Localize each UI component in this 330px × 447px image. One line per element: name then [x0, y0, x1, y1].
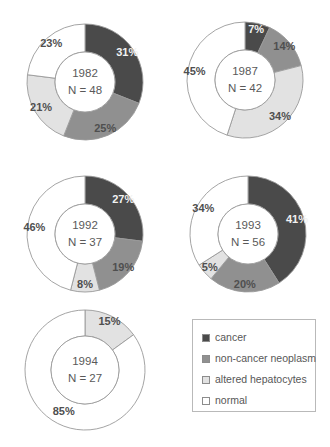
chart-sample-size-label: N = 37 — [68, 236, 102, 248]
slice-percent-label: 34% — [192, 202, 214, 214]
chart-year-label: 1982 — [72, 67, 98, 79]
donut-chart-1987: 7%14%34%45%1987N = 42 — [161, 0, 329, 164]
donut-svg-1982: 31%25%21%23%1982N = 48 — [1, 0, 169, 166]
legend-item-label: non-cancer neoplasm — [215, 353, 316, 364]
slice-percent-label: 14% — [273, 40, 295, 52]
legend-swatch-icon — [202, 334, 210, 342]
legend-item-label: normal — [215, 395, 247, 406]
slice-percent-label: 21% — [30, 101, 52, 113]
chart-sample-size-label: N = 56 — [231, 236, 265, 248]
slice-percent-label: 85% — [53, 405, 75, 417]
slice-percent-label: 5% — [202, 261, 218, 273]
slice-percent-label: 19% — [112, 261, 134, 273]
slice-percent-label: 45% — [184, 65, 206, 77]
pie-chart-figure: 31%25%21%23%1982N = 487%14%34%45%1987N =… — [0, 0, 330, 447]
chart-year-label: 1992 — [72, 219, 98, 231]
donut-hole — [215, 50, 275, 110]
donut-chart-1994: 15%85%1994N = 27 — [0, 284, 171, 447]
donut-svg-1987: 7%14%34%45%1987N = 42 — [161, 0, 329, 164]
legend-swatch-icon — [202, 355, 210, 363]
slice-percent-label: 15% — [98, 315, 120, 327]
chart-year-label: 1987 — [232, 65, 258, 77]
chart-sample-size-label: N = 27 — [68, 372, 102, 384]
slice-percent-label: 27% — [112, 193, 134, 205]
donut-chart-1993: 41%20%5%34%1993N = 56 — [164, 150, 330, 318]
donut-hole — [51, 336, 119, 404]
legend-swatch-icon — [202, 397, 210, 405]
legend-item-non-cancer-neoplasm: non-cancer neoplasm — [202, 348, 315, 369]
donut-hole — [55, 52, 115, 112]
chart-year-label: 1994 — [72, 355, 98, 367]
slice-percent-label: 7% — [248, 23, 264, 35]
slice-percent-label: 20% — [234, 278, 256, 290]
legend-item-altered-hepatocytes: altered hepatocytes — [202, 369, 315, 390]
slice-percent-label: 25% — [94, 122, 116, 134]
chart-sample-size-label: N = 42 — [228, 82, 262, 94]
donut-svg-1994: 15%85%1994N = 27 — [0, 284, 171, 447]
donut-hole — [218, 204, 278, 264]
donut-chart-1982: 31%25%21%23%1982N = 48 — [1, 0, 169, 166]
slice-percent-label: 23% — [40, 37, 62, 49]
slice-percent-label: 41% — [286, 213, 308, 225]
donut-svg-1993: 41%20%5%34%1993N = 56 — [164, 150, 330, 318]
legend-item-label: cancer — [215, 332, 247, 343]
chart-year-label: 1993 — [235, 219, 261, 231]
legend-item-cancer: cancer — [202, 327, 315, 348]
slice-percent-label: 34% — [269, 110, 291, 122]
legend-swatch-icon — [202, 376, 210, 384]
slice-percent-label: 31% — [116, 46, 138, 58]
legend-item-normal: normal — [202, 390, 315, 411]
category-legend: cancernon-cancer neoplasmaltered hepatoc… — [192, 319, 316, 412]
legend-item-label: altered hepatocytes — [215, 374, 307, 385]
chart-sample-size-label: N = 48 — [68, 84, 102, 96]
donut-hole — [55, 204, 115, 264]
slice-percent-label: 46% — [23, 221, 45, 233]
